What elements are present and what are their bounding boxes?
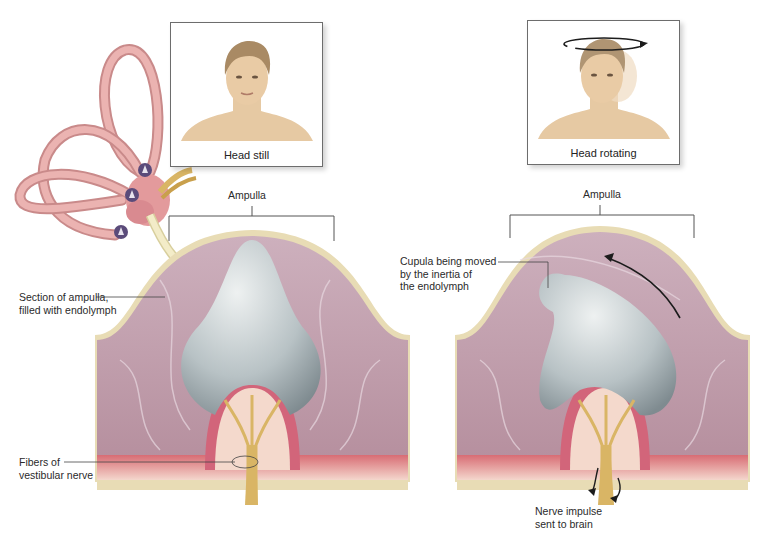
ampulla-section-head-rotating: [0, 0, 767, 540]
vestibular-nerve-fibers-label: Fibers of vestibular nerve: [19, 456, 93, 481]
section-of-ampulla-label: Section of ampulla, filled with endolymp…: [19, 291, 116, 316]
nerve-impulse-label: Nerve impulse sent to brain: [535, 505, 602, 530]
cupula-moved-label: Cupula being moved by the inertia of the…: [400, 255, 496, 293]
